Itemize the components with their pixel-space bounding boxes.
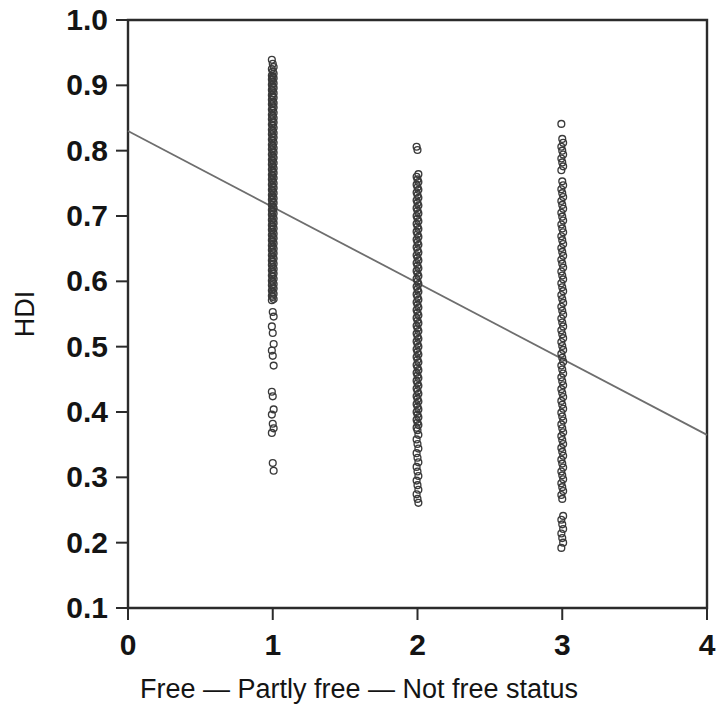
x-tick-label: 2 [409,628,426,661]
y-tick-label: 1.0 [66,3,108,36]
data-point [269,330,276,337]
chart-canvas: 0.10.20.30.40.50.60.70.80.91.0 01234 HDI… [0,0,718,714]
data-point [270,362,277,369]
data-point [269,393,276,400]
y-tick-label: 0.3 [66,460,108,493]
series-points-not-free [558,120,567,551]
y-tick-label: 0.4 [66,395,108,428]
y-tick-label: 0.2 [66,526,108,559]
y-tick-label: 0.1 [66,591,108,624]
data-point [269,460,276,467]
x-tick-label: 3 [554,628,571,661]
y-axis-title: HDI [10,291,40,338]
x-axis-tick-labels: 01234 [120,628,716,661]
y-tick-label: 0.9 [66,68,108,101]
scatter-plot-figure: 0.10.20.30.40.50.60.70.80.91.0 01234 HDI… [0,0,718,714]
data-point [270,313,277,320]
data-point [558,120,565,127]
x-axis-title: Free — Partly free — Not free status [140,674,578,704]
data-point [268,323,275,330]
data-point [270,341,277,348]
series-points-free [268,56,277,474]
x-tick-label: 0 [120,628,137,661]
series-points-partly-free [413,143,422,506]
y-tick-label: 0.5 [66,330,108,363]
y-tick-label: 0.8 [66,134,108,167]
x-axis-ticks [128,608,707,620]
x-tick-label: 4 [699,628,716,661]
y-tick-label: 0.6 [66,264,108,297]
y-tick-label: 0.7 [66,199,108,232]
x-tick-label: 1 [264,628,281,661]
data-point [270,467,277,474]
y-axis-ticks [116,20,128,608]
y-axis-tick-labels: 0.10.20.30.40.50.60.70.80.91.0 [66,3,108,624]
